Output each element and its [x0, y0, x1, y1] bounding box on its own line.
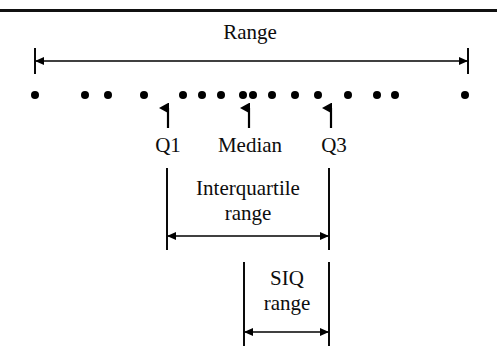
data-dot — [140, 91, 148, 99]
data-dot — [179, 91, 187, 99]
range-right-tick — [467, 48, 469, 74]
data-dot — [104, 91, 112, 99]
siq-range-label-line2: range — [264, 293, 311, 314]
siq-left-tick — [243, 262, 245, 346]
data-dot — [344, 91, 352, 99]
siq-range-label-line1: SIQ — [270, 268, 304, 289]
iqr-right-tick — [328, 168, 330, 250]
data-dot — [314, 91, 322, 99]
siq-right-tick — [328, 262, 330, 346]
data-dot — [217, 91, 225, 99]
top-divider-rule — [0, 9, 497, 12]
data-dot — [268, 91, 276, 99]
q1-label: Q1 — [155, 135, 181, 156]
data-dot — [373, 91, 381, 99]
data-dot — [391, 91, 399, 99]
data-dot — [461, 91, 469, 99]
statistics-range-diagram: Range — [0, 0, 497, 358]
interquartile-range-label-line2: range — [225, 203, 272, 224]
data-dot — [31, 91, 39, 99]
q3-label: Q3 — [321, 135, 347, 156]
range-left-tick — [34, 48, 36, 74]
data-dot — [198, 91, 206, 99]
interquartile-range-label-line1: Interquartile — [196, 178, 300, 199]
range-label: Range — [223, 22, 277, 43]
iqr-left-tick — [166, 168, 168, 250]
median-label: Median — [218, 135, 282, 156]
data-dot — [249, 91, 257, 99]
data-dot — [81, 91, 89, 99]
data-dot — [291, 91, 299, 99]
data-dot — [239, 91, 247, 99]
